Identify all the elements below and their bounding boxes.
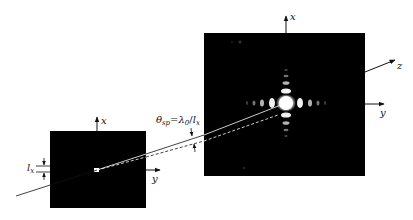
y-axis-label-source: y	[152, 174, 158, 184]
x-axis-label-far: x	[290, 12, 296, 22]
angle-indicator	[191, 128, 195, 152]
aperture-size-label: lx	[27, 163, 34, 175]
aperture-size-indicator	[36, 158, 50, 180]
diffraction-diagram: x y z x y lx θsp=λ0/lx	[0, 0, 413, 220]
z-axis-arrow	[365, 60, 395, 72]
y-axis-label-far: y	[380, 108, 386, 118]
x-axis-label-source: x	[101, 116, 107, 126]
far-field-screen	[204, 33, 365, 176]
z-axis-label: z	[397, 61, 402, 71]
angle-formula: θsp=λ0/lx	[156, 115, 200, 127]
